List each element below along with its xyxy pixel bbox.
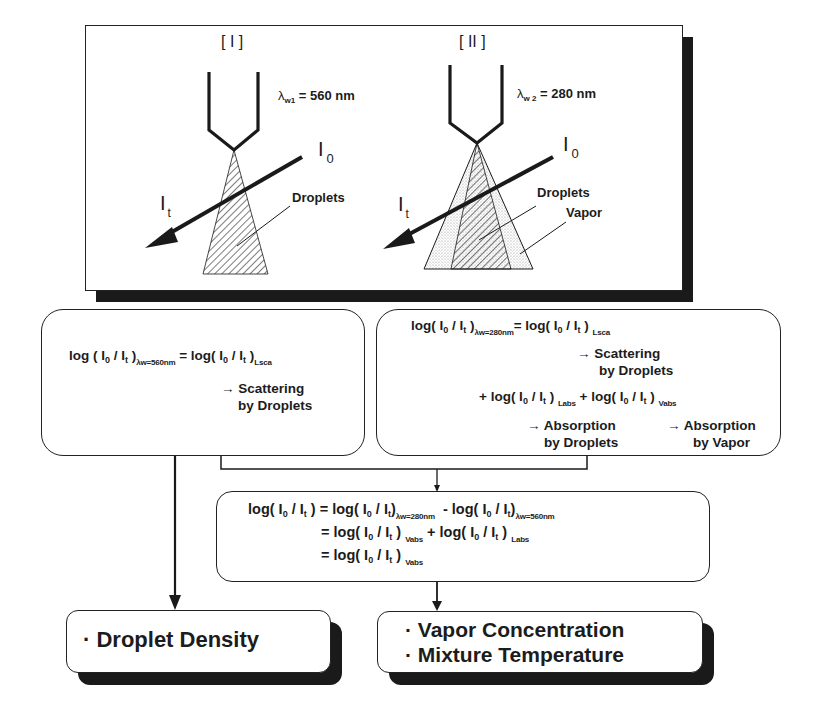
note-absorption-by-vapor: → Absorption by Vapor	[667, 417, 756, 451]
note-absorption-by-droplets: → Absorption by Droplets	[527, 417, 618, 451]
droplets-label-1: Droplets	[292, 190, 345, 205]
equation-560nm: log ( I0 / It )λw=560nm = log( I0 / It )…	[69, 348, 272, 367]
note-scattering-by-droplets: → Scattering by Droplets	[221, 380, 312, 414]
transmitted-intensity-1: It	[160, 192, 171, 220]
equation-280nm: log( I0 / It )λw=280nm= log( I0 / It ) L…	[411, 318, 610, 337]
droplet-density-label: · Droplet Density	[83, 627, 259, 653]
note-scattering-by-droplets-280: → Scattering by Droplets	[577, 345, 673, 379]
incident-intensity-2: I0	[563, 133, 579, 161]
scattering-equation-box-560nm	[41, 309, 365, 456]
output-lines: · Vapor Concentration · Mixture Temperat…	[405, 617, 624, 667]
droplets-label-2: Droplets	[537, 185, 590, 200]
mixture-temperature-label: · Mixture Temperature	[405, 642, 624, 667]
case-1-label: [ I ]	[221, 33, 243, 51]
incident-intensity-1: I0	[318, 138, 334, 166]
vapor-label: Vapor	[566, 205, 602, 220]
vapor-concentration-label: · Vapor Concentration	[405, 617, 624, 642]
transmitted-intensity-2: It	[398, 193, 409, 221]
equation-absorption-terms: + log( I0 / It ) Labs + log( I0 / It ) V…	[479, 389, 676, 408]
difference-equation-line-2: = log( I0 / It ) Vabs + log( I0 / It ) L…	[321, 524, 529, 544]
difference-equation-line-3: = log( I0 / It ) Vabs	[321, 547, 423, 567]
case-2-label: [ II ]	[459, 33, 486, 51]
wavelength-1: λw1 = 560 nm	[278, 88, 355, 105]
wavelength-2: λw 2 = 280 nm	[517, 86, 596, 103]
difference-equation-line-1: log( I0 / It ) = log( I0 / It)λw=280nm -…	[248, 501, 555, 521]
